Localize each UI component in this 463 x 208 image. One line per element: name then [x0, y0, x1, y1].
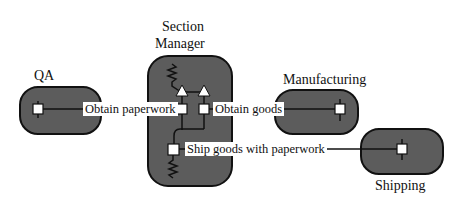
qa-label: QA — [34, 68, 54, 84]
shipping-label: Shipping — [375, 178, 426, 194]
section-manager-node[interactable] — [148, 56, 232, 186]
obtain-paperwork-label[interactable]: Obtain paperwork — [83, 102, 178, 116]
sm-paperwork-port[interactable] — [177, 104, 187, 114]
ship-goods-label[interactable]: Ship goods with paperwork — [185, 142, 327, 156]
sm-ship-port[interactable] — [168, 144, 179, 155]
section-manager-label-line1: Section — [162, 19, 204, 35]
manufacturing-port[interactable] — [335, 104, 345, 114]
manufacturing-label: Manufacturing — [283, 72, 366, 88]
sm-goods-port[interactable] — [199, 104, 209, 114]
qa-port[interactable] — [33, 104, 43, 114]
section-manager-label-line2: Manager — [155, 36, 205, 52]
obtain-goods-label[interactable]: Obtain goods — [213, 102, 284, 116]
shipping-port[interactable] — [397, 144, 407, 154]
